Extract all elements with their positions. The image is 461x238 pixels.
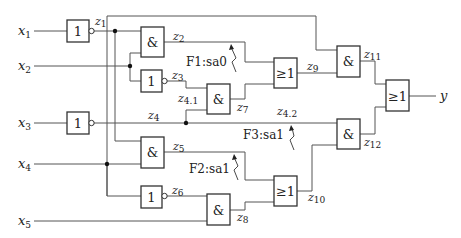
gate-not4: 1 bbox=[67, 112, 94, 134]
signal-label-z1: z1 bbox=[94, 15, 107, 29]
gate-symbol: & bbox=[147, 35, 159, 50]
inverter-bubble-icon bbox=[89, 120, 94, 125]
lightning-arrow-icon bbox=[229, 44, 236, 72]
gate-symbol: 1 bbox=[147, 190, 155, 205]
wire-x4-not6 bbox=[107, 164, 141, 196]
wire-z4-1 bbox=[186, 110, 207, 123]
gate-and7: & bbox=[207, 84, 230, 114]
wire-z7 bbox=[230, 84, 274, 99]
signal-label-z8: z8 bbox=[236, 211, 249, 225]
gate-not3: 1 bbox=[141, 70, 167, 92]
signal-label-z4-2: z4.2 bbox=[276, 105, 297, 119]
fault-label-f1: F1:sa0 bbox=[186, 55, 227, 69]
gate-or9: ≥1 bbox=[274, 58, 297, 88]
gate-or13: ≥1 bbox=[386, 80, 409, 111]
signal-label-z7: z7 bbox=[236, 101, 249, 115]
input-label-x2: x2 bbox=[18, 58, 31, 75]
signal-label-z3: z3 bbox=[171, 69, 184, 83]
junction-x4 bbox=[105, 162, 109, 166]
signal-label-z11: z11 bbox=[363, 48, 381, 62]
gate-symbol: ≥1 bbox=[276, 66, 295, 81]
fault-f2: F2:sa1 bbox=[189, 154, 238, 180]
gate-symbol: 1 bbox=[74, 24, 82, 39]
signal-label-z5: z5 bbox=[172, 140, 185, 154]
input-label-x4: x4 bbox=[18, 156, 31, 173]
signal-label-z4-1: z4.1 bbox=[177, 92, 198, 106]
gate-and12: & bbox=[337, 119, 360, 149]
junction-x2 bbox=[128, 64, 132, 68]
fault-f3: F3:sa1 bbox=[243, 125, 294, 150]
inverter-bubble-icon bbox=[162, 78, 167, 83]
gate-and8: & bbox=[207, 194, 230, 225]
input-label-x1: x1 bbox=[18, 23, 31, 40]
wire-z8 bbox=[230, 202, 274, 210]
gate-symbol: & bbox=[147, 145, 159, 160]
output-label-y: y bbox=[439, 88, 448, 103]
wire-z1-and5 bbox=[115, 31, 141, 141]
gate-symbol: ≥1 bbox=[276, 184, 295, 199]
gate-symbol: & bbox=[343, 54, 355, 69]
gate-or10: ≥1 bbox=[274, 176, 297, 206]
lightning-arrow-icon bbox=[289, 125, 294, 150]
logic-circuit-diagram: 1 & 1 1 & 1 & & ≥1 ≥1 & bbox=[0, 0, 461, 238]
wires bbox=[34, 16, 436, 221]
gate-symbol: ≥1 bbox=[388, 89, 407, 104]
gate-symbol: & bbox=[213, 92, 225, 107]
gate-and11: & bbox=[337, 46, 360, 77]
signal-label-z12: z12 bbox=[363, 136, 381, 150]
wire-z11 bbox=[360, 61, 386, 84]
wire-z10 bbox=[297, 145, 337, 191]
gate-not6: 1 bbox=[141, 186, 167, 208]
fault-label-f2: F2:sa1 bbox=[189, 162, 230, 176]
gate-symbol: 1 bbox=[147, 74, 155, 89]
junction-z1 bbox=[113, 29, 117, 33]
gate-symbol: & bbox=[343, 127, 355, 142]
fault-f1: F1:sa0 bbox=[186, 44, 236, 72]
lightning-arrow-icon bbox=[232, 154, 238, 180]
signal-label-z10: z10 bbox=[307, 191, 326, 205]
signal-label-z6: z6 bbox=[171, 184, 184, 198]
signal-label-z2: z2 bbox=[172, 30, 185, 44]
gate-not1: 1 bbox=[67, 20, 94, 42]
inverter-bubble-icon bbox=[89, 28, 94, 33]
inverter-bubble-icon bbox=[162, 193, 167, 198]
fault-label-f3: F3:sa1 bbox=[243, 128, 284, 142]
input-label-x3: x3 bbox=[18, 115, 31, 132]
signal-label-z4: z4 bbox=[147, 109, 160, 123]
wire-z12 bbox=[360, 107, 386, 134]
gate-and2: & bbox=[141, 27, 164, 57]
gate-symbol: 1 bbox=[74, 116, 82, 131]
wire-z3 bbox=[167, 81, 207, 88]
junction-z4 bbox=[184, 121, 188, 125]
gate-and5: & bbox=[141, 137, 164, 168]
signal-label-z9: z9 bbox=[306, 60, 319, 74]
gate-symbol: & bbox=[213, 203, 225, 218]
input-label-x5: x5 bbox=[18, 213, 31, 230]
